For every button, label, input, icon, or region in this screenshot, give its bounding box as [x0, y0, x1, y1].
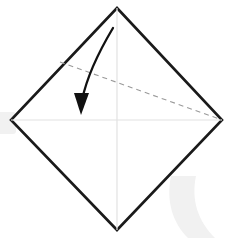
diagram-canvas [0, 0, 235, 238]
bottom-right-curved-band-watermark [169, 176, 215, 238]
origami-diagram: Origami fold diagram Square sheet rotate… [0, 0, 235, 238]
